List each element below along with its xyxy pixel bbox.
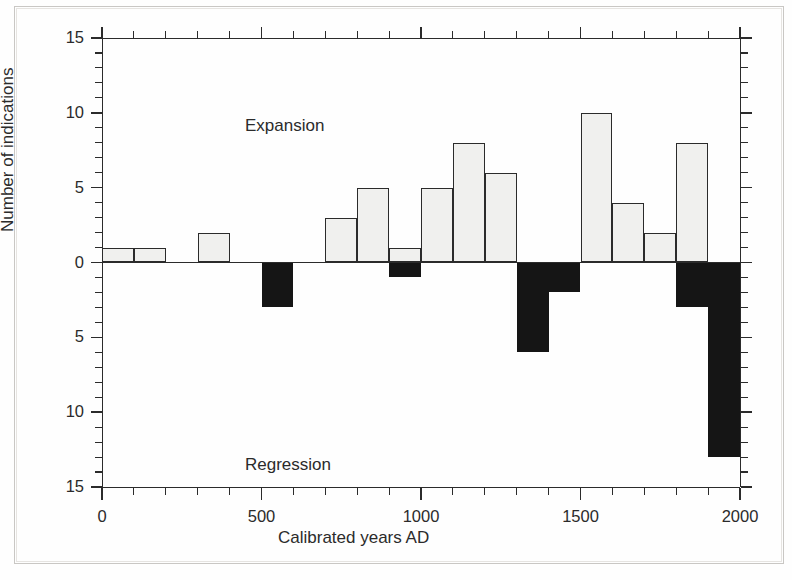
y-tick-label-5-4: 5 bbox=[44, 327, 84, 346]
x-tick-200 bbox=[165, 488, 166, 495]
x-tick-400 bbox=[229, 488, 230, 495]
y-tick-label-15-6: 15 bbox=[44, 477, 84, 496]
y-tick-14 bbox=[95, 52, 102, 53]
y-tick-right-neg8 bbox=[741, 382, 748, 383]
bar-expansion-1100-1200 bbox=[453, 143, 485, 263]
y-tick-12 bbox=[95, 82, 102, 83]
x-tick-top-1800 bbox=[676, 31, 677, 38]
y-tick-neg8 bbox=[95, 382, 102, 383]
y-tick-neg13 bbox=[95, 457, 102, 458]
x-tick-top-700 bbox=[325, 31, 326, 38]
bar-regression-1800-1900 bbox=[676, 263, 708, 308]
x-tick-100 bbox=[133, 488, 134, 495]
y-tick-neg2 bbox=[95, 292, 102, 293]
x-tick-top-1900 bbox=[708, 31, 709, 38]
x-tick-500 bbox=[261, 488, 262, 500]
y-tick-3 bbox=[95, 217, 102, 218]
y-tick-11 bbox=[95, 97, 102, 98]
x-tick-top-0 bbox=[101, 27, 102, 38]
x-tick-top-200 bbox=[165, 31, 166, 38]
x-tick-1500 bbox=[580, 488, 581, 500]
x-tick-900 bbox=[389, 488, 390, 495]
y-tick-neg12 bbox=[95, 442, 102, 443]
figure-canvas: Number of indications Calibrated years A… bbox=[0, 0, 792, 580]
y-tick-label-15-0: 15 bbox=[44, 28, 84, 47]
y-tick-right-11 bbox=[741, 97, 748, 98]
x-tick-1900 bbox=[708, 488, 709, 495]
annotation-regression: Regression bbox=[245, 455, 331, 475]
y-tick-right-4 bbox=[741, 202, 748, 203]
y-tick-7 bbox=[95, 157, 102, 158]
bar-expansion-1600-1700 bbox=[612, 203, 644, 263]
y-tick-5 bbox=[91, 187, 102, 188]
x-tick-1600 bbox=[612, 488, 613, 495]
bar-regression-1300-1400 bbox=[517, 263, 549, 353]
y-tick-neg5 bbox=[91, 337, 102, 338]
bar-regression-1400-1500 bbox=[549, 263, 581, 293]
y-tick-right-neg11 bbox=[741, 427, 748, 428]
y-tick-10 bbox=[91, 112, 102, 113]
y-tick-neg14 bbox=[95, 471, 102, 472]
y-tick-right-6 bbox=[741, 172, 748, 173]
bar-expansion-1000-1100 bbox=[421, 188, 453, 263]
y-tick-neg4 bbox=[95, 322, 102, 323]
y-tick-right-neg5 bbox=[741, 337, 752, 338]
bar-expansion-300-400 bbox=[198, 233, 230, 263]
y-tick-right-neg9 bbox=[741, 397, 748, 398]
bar-expansion-1500-1600 bbox=[581, 113, 613, 263]
y-tick-right-neg1 bbox=[741, 277, 748, 278]
x-tick-top-1000 bbox=[420, 27, 421, 38]
plot-area: Expansion Regression bbox=[102, 38, 740, 487]
y-axis-title: Number of indications bbox=[0, 68, 18, 232]
x-tick-1200 bbox=[484, 488, 485, 495]
x-tick-1700 bbox=[644, 488, 645, 495]
x-tick-label-500: 500 bbox=[227, 507, 297, 526]
bar-expansion-1200-1300 bbox=[485, 173, 517, 263]
y-tick-right-10 bbox=[741, 112, 752, 113]
x-tick-top-1500 bbox=[580, 27, 581, 38]
y-tick-right-15 bbox=[741, 37, 752, 38]
y-tick-right-neg4 bbox=[741, 322, 748, 323]
x-tick-600 bbox=[293, 488, 294, 495]
x-tick-label-1000: 1000 bbox=[386, 507, 456, 526]
y-tick-neg3 bbox=[95, 307, 102, 308]
y-tick-label-0-3: 0 bbox=[44, 253, 84, 272]
x-tick-700 bbox=[325, 488, 326, 495]
y-tick-label-10-5: 10 bbox=[44, 402, 84, 421]
y-tick-neg10 bbox=[91, 411, 102, 412]
bar-expansion-0-100 bbox=[102, 248, 134, 263]
bar-expansion-1800-1900 bbox=[676, 143, 708, 263]
y-tick-right-neg14 bbox=[741, 471, 748, 472]
y-tick-right-5 bbox=[741, 187, 752, 188]
y-tick-right-14 bbox=[741, 52, 748, 53]
x-tick-top-1700 bbox=[644, 31, 645, 38]
x-tick-1400 bbox=[548, 488, 549, 495]
x-tick-1300 bbox=[516, 488, 517, 495]
y-tick-right-0 bbox=[741, 262, 752, 263]
y-tick-8 bbox=[95, 142, 102, 143]
zero-baseline bbox=[102, 262, 740, 263]
x-tick-top-800 bbox=[357, 31, 358, 38]
x-tick-top-600 bbox=[293, 31, 294, 38]
y-tick-label-10-1: 10 bbox=[44, 103, 84, 122]
y-tick-right-neg13 bbox=[741, 457, 748, 458]
y-tick-right-9 bbox=[741, 127, 748, 128]
y-tick-neg1 bbox=[95, 277, 102, 278]
x-tick-top-300 bbox=[197, 31, 198, 38]
y-tick-label-5-2: 5 bbox=[44, 178, 84, 197]
bar-expansion-800-900 bbox=[357, 188, 389, 263]
y-tick-2 bbox=[95, 232, 102, 233]
plot-top-border bbox=[102, 38, 740, 39]
x-tick-top-500 bbox=[261, 27, 262, 38]
x-tick-top-1200 bbox=[484, 31, 485, 38]
x-tick-label-2000: 2000 bbox=[705, 507, 775, 526]
y-tick-neg11 bbox=[95, 427, 102, 428]
bar-expansion-900-1000 bbox=[389, 248, 421, 263]
x-tick-top-1400 bbox=[548, 31, 549, 38]
y-tick-13 bbox=[95, 67, 102, 68]
x-tick-0 bbox=[101, 488, 102, 500]
bar-regression-1900-2000 bbox=[708, 263, 740, 458]
y-tick-right-neg3 bbox=[741, 307, 748, 308]
y-tick-neg7 bbox=[95, 367, 102, 368]
x-tick-top-1600 bbox=[612, 31, 613, 38]
